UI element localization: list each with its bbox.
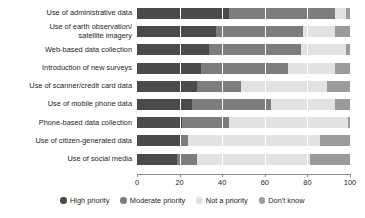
category-label: Use of citizen-generated data xyxy=(0,136,132,145)
bar-segment xyxy=(137,8,229,19)
bar-segment xyxy=(137,26,216,37)
bar-segment xyxy=(346,8,350,19)
category-label-line: Phone-based data collection xyxy=(0,118,132,127)
x-axis-tick xyxy=(222,174,223,177)
category-label-line: Web-based data collection xyxy=(0,45,132,54)
gridline xyxy=(307,8,308,173)
category-label-line: Use of social media xyxy=(0,154,132,163)
bar-segment xyxy=(271,99,335,110)
bar-segment xyxy=(320,135,350,146)
category-label-line: Use of mobile phone data xyxy=(0,99,132,108)
bar-segment xyxy=(197,154,310,165)
bar-segment xyxy=(288,63,335,74)
bar-segment xyxy=(180,135,189,146)
bar-row xyxy=(137,117,350,128)
gridline xyxy=(265,8,266,173)
category-label: Phone-based data collection xyxy=(0,118,132,127)
category-label: Use of earth observation/satellite image… xyxy=(0,22,132,41)
bar-row xyxy=(137,154,350,165)
x-axis-tick xyxy=(307,174,308,177)
legend-label: Not a priority xyxy=(206,196,248,205)
gridline xyxy=(222,8,223,173)
legend-swatch-circle-icon xyxy=(60,197,67,204)
bar-segment xyxy=(188,135,320,146)
legend-item[interactable]: Moderate priority xyxy=(120,196,185,205)
bar-segment xyxy=(229,8,336,19)
legend-label: Moderate priority xyxy=(130,196,185,205)
x-axis-tick xyxy=(350,174,351,177)
bar-segment xyxy=(241,81,326,92)
legend-label: High priority xyxy=(70,196,109,205)
bar-segment xyxy=(335,8,346,19)
x-axis-tick-label: 20 xyxy=(168,178,192,187)
category-label: Web-based data collection xyxy=(0,45,132,54)
bar-row xyxy=(137,44,350,55)
bar-segment xyxy=(137,135,180,146)
bar-row xyxy=(137,8,350,19)
bar-segment xyxy=(192,99,271,110)
bar-segment xyxy=(197,81,242,92)
bar-row xyxy=(137,99,350,110)
legend-swatch-circle-icon xyxy=(120,197,127,204)
x-axis-tick-label: 60 xyxy=(253,178,277,187)
gridline xyxy=(180,8,181,173)
stacked-bar-chart: Use of administrative dataUse of earth o… xyxy=(0,0,365,218)
category-label: Use of mobile phone data xyxy=(0,99,132,108)
bar-row xyxy=(137,63,350,74)
category-label: Introduction of new surveys xyxy=(0,63,132,72)
bar-segment xyxy=(327,81,350,92)
x-axis-tick xyxy=(265,174,266,177)
category-label-line: Use of scanner/credit card data xyxy=(0,81,132,90)
bar-row xyxy=(137,81,350,92)
x-axis-tick xyxy=(180,174,181,177)
bar-segment xyxy=(335,99,350,110)
plot-area xyxy=(137,8,350,173)
legend-swatch-circle-icon xyxy=(196,197,203,204)
x-axis-tick-label: 80 xyxy=(295,178,319,187)
x-axis-line xyxy=(137,174,350,175)
bar-segment xyxy=(310,154,350,165)
category-label: Use of scanner/credit card data xyxy=(0,81,132,90)
x-axis-tick-label: 0 xyxy=(125,178,149,187)
category-label-line: Use of citizen-generated data xyxy=(0,136,132,145)
bar-segment xyxy=(348,117,350,128)
x-axis-tick-label: 100 xyxy=(338,178,362,187)
bar-segment xyxy=(335,63,350,74)
category-label: Use of administrative data xyxy=(0,8,132,17)
category-label-line: Introduction of new surveys xyxy=(0,63,132,72)
legend-swatch-circle-icon xyxy=(259,197,266,204)
chart-legend: High priorityModerate priorityNot a prio… xyxy=(0,196,365,205)
category-label-line: satellite imagery xyxy=(0,31,132,40)
bar-segment xyxy=(137,99,192,110)
legend-item[interactable]: Not a priority xyxy=(196,196,247,205)
x-axis-tick-label: 40 xyxy=(210,178,234,187)
legend-item[interactable]: Don't know xyxy=(259,196,305,205)
bar-row xyxy=(137,26,350,37)
category-label: Use of social media xyxy=(0,154,132,163)
legend-label: Don't know xyxy=(268,196,304,205)
bar-segment xyxy=(216,26,303,37)
bar-segment xyxy=(137,81,197,92)
category-label-line: Use of earth observation/ xyxy=(0,22,132,31)
legend-item[interactable]: High priority xyxy=(60,196,109,205)
category-label-line: Use of administrative data xyxy=(0,8,132,17)
bar-segment xyxy=(335,26,350,37)
bar-segment xyxy=(137,44,209,55)
bar-segment xyxy=(201,63,288,74)
x-axis-tick xyxy=(137,174,138,177)
bar-segment xyxy=(137,154,177,165)
bar-segment xyxy=(346,44,350,55)
bar-segment xyxy=(229,117,348,128)
bar-row xyxy=(137,135,350,146)
bar-segment xyxy=(137,117,182,128)
bar-segment xyxy=(137,63,201,74)
